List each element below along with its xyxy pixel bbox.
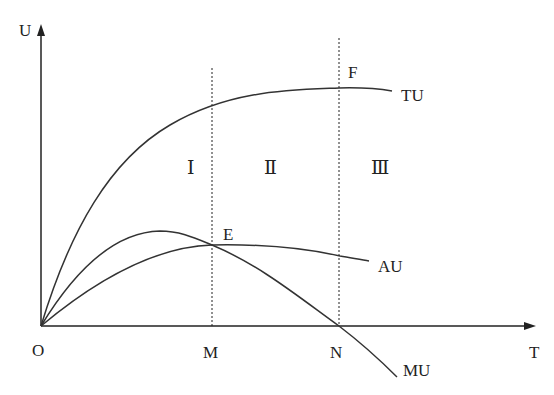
y-axis-arrow-icon bbox=[37, 24, 45, 36]
point-e-label: E bbox=[223, 226, 233, 243]
au-label: AU bbox=[378, 258, 403, 275]
origin-label: O bbox=[32, 342, 44, 359]
region-3-label: Ⅲ bbox=[371, 158, 389, 177]
point-f-label: F bbox=[348, 64, 357, 81]
region-1-label: Ⅰ bbox=[187, 158, 195, 177]
tu-label: TU bbox=[401, 87, 424, 104]
n-label: N bbox=[330, 344, 342, 361]
mu-curve bbox=[41, 231, 397, 377]
mu-label: MU bbox=[403, 362, 430, 379]
x-axis-label: T bbox=[529, 344, 539, 361]
m-label: M bbox=[203, 344, 218, 361]
y-axis-label: U bbox=[19, 22, 31, 39]
au-curve bbox=[41, 245, 369, 326]
region-2-label: Ⅱ bbox=[264, 158, 277, 177]
utility-diagram bbox=[0, 0, 554, 395]
x-axis-arrow-icon bbox=[524, 322, 536, 330]
